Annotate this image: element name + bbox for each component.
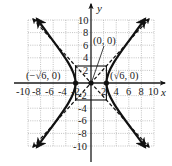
svg-text:4: 4 [83, 52, 89, 63]
right-vertex-label: (√6, 0) [110, 70, 139, 82]
svg-text:2: 2 [101, 86, 106, 97]
svg-text:-10: -10 [73, 141, 87, 152]
center-label: (0, 0) [93, 35, 116, 47]
svg-text:2: 2 [83, 65, 88, 76]
svg-text:-4: -4 [58, 86, 67, 97]
svg-text:6: 6 [126, 86, 131, 97]
svg-text:-8: -8 [32, 86, 41, 97]
hyperbola-graph: -10 -8 -6 -4 -2 2 4 6 8 10 10 8 6 4 2 -2… [0, 0, 172, 166]
left-vertex-label: (−√6, 0) [26, 70, 61, 82]
svg-text:-4: -4 [78, 103, 87, 114]
y-axis-label: y [96, 2, 102, 14]
svg-text:-6: -6 [45, 86, 54, 97]
svg-text:6: 6 [83, 40, 88, 51]
x-axis-label: x [160, 86, 166, 98]
center-point [88, 80, 93, 85]
svg-text:-10: -10 [16, 86, 30, 97]
svg-text:8: 8 [139, 86, 144, 97]
svg-text:8: 8 [83, 27, 88, 38]
center-label-leader [92, 46, 104, 81]
svg-text:-8: -8 [78, 128, 87, 139]
svg-text:-6: -6 [78, 115, 87, 126]
svg-text:10: 10 [78, 15, 89, 26]
svg-text:4: 4 [114, 86, 120, 97]
svg-text:-2: -2 [78, 90, 87, 101]
svg-text:10: 10 [148, 86, 159, 97]
